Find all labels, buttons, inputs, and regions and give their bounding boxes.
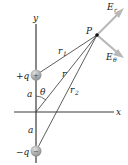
point-p-label: P — [85, 26, 93, 36]
e-r-label: E — [106, 2, 114, 12]
negative-charge-label: −q — [16, 147, 30, 157]
e-theta-label: E — [105, 52, 113, 62]
r1-subscript: 1 — [63, 50, 67, 57]
a-bottom-label: a — [28, 125, 33, 135]
positive-charge-label: +q — [16, 71, 30, 81]
negative-charge-symbol: − — [33, 148, 39, 156]
r2-subscript: 2 — [74, 89, 79, 96]
y-axis-label: y — [32, 13, 39, 23]
positive-charge-symbol: + — [33, 72, 39, 80]
x-axis-label: x — [116, 107, 121, 117]
r-label: r — [62, 69, 67, 79]
e-theta-subscript: θ — [113, 56, 117, 63]
theta-label: θ — [40, 87, 46, 97]
a-top-label: a — [27, 89, 32, 99]
diagram-canvas: + − y x P +q −q a a θ r 1 r r 2 E r E θ — [0, 0, 128, 165]
r-line — [36, 35, 97, 112]
point-p — [95, 33, 99, 37]
dipole-diagram: + − y x P +q −q a a θ r 1 r r 2 E r E θ — [0, 0, 128, 165]
